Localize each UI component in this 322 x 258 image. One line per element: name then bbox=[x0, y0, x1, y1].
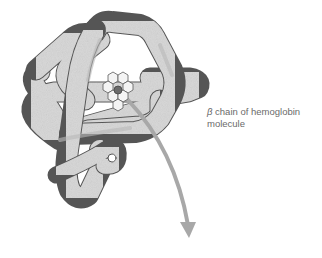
label-line-1-text: chain of hemoglobin bbox=[212, 106, 300, 117]
iron-atom bbox=[114, 86, 122, 94]
label-line-2: molecule bbox=[207, 118, 300, 130]
beta-chain-label: β chain of hemoglobin molecule bbox=[207, 106, 300, 130]
label-line-1: β chain of hemoglobin bbox=[207, 106, 300, 118]
